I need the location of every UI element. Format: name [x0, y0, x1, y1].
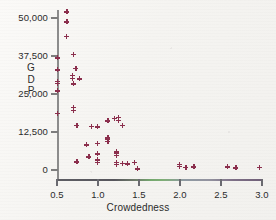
y-axis-tick-label: 37,500	[0, 50, 48, 61]
data-point	[114, 162, 119, 167]
x-axis-tick	[138, 179, 140, 186]
data-point	[64, 19, 69, 24]
data-point	[116, 118, 121, 123]
data-point	[120, 161, 125, 166]
y-axis-title-char-0: G	[24, 62, 38, 74]
data-point	[105, 137, 110, 142]
data-point	[71, 108, 76, 113]
x-axis-tick	[261, 179, 263, 186]
data-point	[71, 81, 76, 86]
y-axis-tick	[51, 131, 58, 133]
data-point	[114, 153, 119, 158]
data-point	[95, 151, 100, 156]
y-axis-tick	[51, 93, 58, 95]
data-point	[86, 154, 91, 159]
y-axis-line	[57, 10, 59, 180]
data-point	[257, 165, 262, 170]
data-point	[114, 149, 119, 154]
data-point	[114, 160, 119, 165]
data-point	[64, 34, 69, 39]
data-point	[191, 164, 196, 169]
x-axis-tick	[179, 179, 181, 186]
data-point	[135, 166, 140, 171]
data-point	[116, 115, 121, 120]
x-axis-tick	[56, 179, 58, 186]
y-axis-tick	[51, 55, 58, 57]
x-axis-tick	[220, 179, 222, 186]
x-axis-tick-label: 1.5	[119, 189, 159, 200]
data-point	[95, 157, 100, 162]
data-point	[132, 160, 137, 165]
x-axis-line	[57, 179, 262, 181]
data-point	[183, 165, 188, 170]
x-axis-tick-label: 2.0	[160, 189, 200, 200]
data-point	[70, 76, 75, 81]
data-point	[177, 164, 182, 169]
data-point	[89, 124, 94, 129]
y-axis-tick-label: 0	[0, 164, 48, 175]
data-point	[71, 105, 76, 110]
y-axis-tick	[51, 17, 58, 19]
x-axis-tick	[97, 179, 99, 186]
data-point	[233, 165, 238, 170]
x-axis-tick-label: 1.0	[78, 189, 118, 200]
data-point	[70, 73, 75, 78]
data-point	[64, 9, 69, 14]
data-point	[71, 52, 76, 57]
y-axis-title-char-2: P	[24, 85, 38, 97]
data-point	[125, 161, 130, 166]
x-axis-tick-label: 3.0	[242, 189, 276, 200]
x-axis-tick-label: 0.5	[37, 189, 77, 200]
data-point	[84, 142, 89, 147]
data-point	[120, 123, 125, 128]
y-axis-tick-label: 50,000	[0, 12, 48, 23]
data-point	[95, 141, 100, 146]
y-axis-tick-label: 12,500	[0, 126, 48, 137]
data-point	[135, 166, 140, 171]
data-point	[105, 118, 110, 123]
y-axis-tick	[51, 169, 58, 171]
data-point	[73, 66, 78, 71]
data-point	[225, 164, 230, 169]
y-axis-title: GDP	[24, 62, 38, 97]
data-point	[112, 116, 117, 121]
data-point	[105, 139, 110, 144]
data-point	[74, 123, 79, 128]
data-point	[105, 135, 110, 140]
data-point	[74, 159, 79, 164]
x-axis-tick-label: 2.5	[201, 189, 241, 200]
data-point	[95, 160, 100, 165]
x-axis-title: Crowdedness	[0, 202, 276, 213]
data-point	[95, 124, 100, 129]
data-point	[77, 76, 82, 81]
y-axis-title-char-1: D	[24, 74, 38, 86]
scatter-plot: 012,50025,00037,50050,000 0.51.01.52.02.…	[0, 0, 276, 220]
data-point	[177, 162, 182, 167]
data-point	[114, 151, 119, 156]
